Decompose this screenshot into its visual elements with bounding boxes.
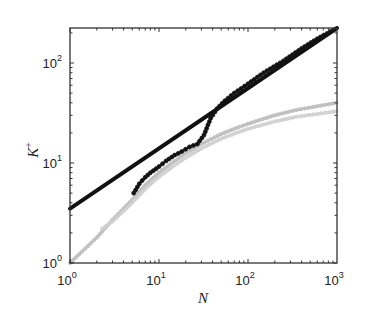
x-tick-label: 100	[57, 270, 76, 288]
tick-labels: 100101102103100101102	[43, 53, 344, 288]
y-tick-label: 100	[43, 253, 62, 271]
series-light-data-2	[101, 110, 338, 231]
x-axis-title: N	[197, 290, 209, 306]
ticks-layer	[70, 28, 337, 263]
y-tick-label: 101	[43, 153, 62, 171]
x-tick-label: 101	[146, 270, 165, 288]
y-tick-label: 102	[43, 53, 62, 71]
series-layer	[68, 28, 337, 265]
x-tick-label: 102	[235, 270, 254, 288]
y-axis-title-sup: +	[23, 142, 34, 148]
loglog-chart: 100101102103100101102 N K+	[0, 0, 368, 327]
y-axis-title: K+	[23, 142, 41, 159]
x-tick-label: 103	[324, 270, 343, 288]
plot-frame	[70, 28, 337, 263]
